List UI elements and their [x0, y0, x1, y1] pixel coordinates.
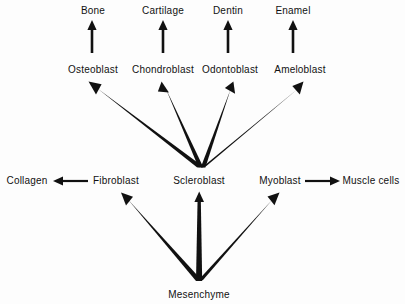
edge-mesenchyme-to-fibroblast [121, 193, 202, 282]
node-odontoblast: Odontoblast [202, 64, 258, 76]
node-mesenchyme: Mesenchyme [168, 289, 229, 301]
node-chondroblast: Chondroblast [132, 64, 194, 76]
edge-ameloblast-to-enamel [288, 20, 297, 53]
node-fibroblast: Fibroblast [93, 175, 139, 187]
node-myoblast: Myoblast [259, 175, 301, 187]
node-scleroblast: Scleroblast [173, 175, 225, 187]
edge-chondroblast-to-cartilage [158, 20, 167, 53]
edge-myoblast-to-muscle-cells [305, 177, 340, 186]
node-enamel: Enamel [275, 5, 310, 17]
node-dentin: Dentin [213, 5, 243, 17]
node-cartilage: Cartilage [142, 5, 184, 17]
node-ameloblast: Ameloblast [274, 64, 325, 76]
edge-mesenchyme-to-myoblast [198, 193, 280, 282]
diagram-canvas [0, 0, 405, 304]
node-bone: Bone [81, 5, 105, 17]
node-muscle-cells: Muscle cells [343, 175, 400, 187]
edge-odontoblast-to-dentin [223, 20, 232, 53]
node-osteoblast: Osteoblast [68, 64, 118, 76]
edge-mesenchyme-to-scleroblast [194, 192, 204, 282]
edge-scleroblast-to-chondroblast [158, 82, 203, 168]
edge-fibroblast-to-collagen [53, 177, 88, 186]
edge-scleroblast-to-osteoblast [89, 82, 203, 168]
edge-osteoblast-to-bone [87, 20, 96, 53]
lineage-diagram: Bone Cartilage Dentin Enamel Osteoblast … [0, 0, 405, 304]
node-collagen: Collagen [6, 175, 47, 187]
